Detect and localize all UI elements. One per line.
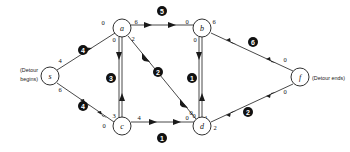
source-note-line1: (Detour bbox=[20, 67, 38, 73]
edge-arrow-a-c-right bbox=[168, 22, 176, 28]
edge-arrow-a-d-upper bbox=[142, 53, 150, 62]
edge-badge-e6-cf: 6 bbox=[248, 37, 258, 47]
edge-lines-layer bbox=[57, 22, 293, 125]
edge-badge-e1-dc: 1 bbox=[187, 73, 197, 83]
edge-badge-label: 2 bbox=[246, 109, 250, 116]
edge-arrow-a-down bbox=[116, 52, 122, 60]
edge-arrow-c-down bbox=[196, 52, 202, 60]
edge-head-value-e2-df: 0 bbox=[283, 88, 286, 95]
network-flow-diagram: 4 0 6 0 6 0 3 0 2 0 1 0 0 6 0 2 0 4 0 4 … bbox=[0, 0, 350, 152]
edge-head-value-e6-cf: 0 bbox=[283, 56, 286, 63]
edge-badge-e5-ac: 5 bbox=[157, 6, 167, 16]
edge-head-value-e4-sa: 0 bbox=[101, 19, 104, 26]
edge-badge-e2-df: 2 bbox=[243, 107, 253, 117]
edge-arrow-a-d-lower bbox=[180, 99, 188, 108]
node-f[interactable]: f bbox=[291, 68, 309, 86]
edge-tail-value-e1-bd: 4 bbox=[137, 114, 141, 121]
edge-head-value-e5-ac: 0 bbox=[185, 18, 188, 25]
edge-badge-label: 4 bbox=[81, 47, 85, 54]
edge-arrow-b-d-right bbox=[173, 119, 181, 125]
edge-head-value-e1-dc: 0 bbox=[193, 36, 196, 43]
edge-arrow-a-c-left bbox=[144, 22, 152, 28]
edge-badge-e4-sb: 4 bbox=[78, 101, 88, 111]
edge-tail-value-e4-sb: 6 bbox=[58, 86, 62, 93]
edge-badge-e1-bd: 1 bbox=[157, 133, 167, 143]
edge-arrow-b-up bbox=[119, 93, 125, 101]
edge-badge-label: 4 bbox=[81, 103, 85, 110]
edge-extra-value-e1-dc: 0 bbox=[192, 112, 195, 119]
node-label-c: b bbox=[200, 24, 204, 33]
edge-arrow-b-d-left bbox=[149, 119, 157, 125]
node-d[interactable]: d bbox=[193, 117, 211, 135]
edge-badge-e3-ba: 3 bbox=[106, 73, 116, 83]
nodes-layer: s a b c d f bbox=[41, 19, 309, 135]
edge-tail-value-e4-sa: 4 bbox=[58, 57, 62, 64]
edge-badge-label: 3 bbox=[109, 75, 113, 82]
node-a[interactable]: a bbox=[113, 19, 131, 37]
edge-tail-value-e2-df: 2 bbox=[213, 124, 216, 131]
edge-badge-label: 5 bbox=[160, 8, 164, 15]
edge-tail-value-e2-ad: 2 bbox=[131, 35, 134, 42]
edge-tail-value-e6-cf: 6 bbox=[212, 18, 216, 25]
edge-badge-label: 2 bbox=[156, 69, 160, 76]
edge-head-value-e3-ba: 0 bbox=[112, 36, 115, 43]
edge-badge-e4-sa: 4 bbox=[78, 45, 88, 55]
node-b[interactable]: c bbox=[113, 117, 131, 135]
node-s[interactable]: s bbox=[41, 67, 59, 85]
edge-badge-label: 1 bbox=[160, 135, 164, 142]
edge-badge-label: 1 bbox=[190, 75, 194, 82]
edge-arrow-s-b-2 bbox=[97, 111, 107, 118]
edge-arrow-d-up bbox=[199, 93, 205, 101]
node-label-a: a bbox=[120, 24, 124, 33]
node-label-b: c bbox=[120, 122, 124, 131]
edge-line-d-f bbox=[211, 84, 293, 122]
node-c[interactable]: b bbox=[193, 19, 211, 37]
edge-badge-label: 6 bbox=[251, 39, 255, 46]
node-label-s: s bbox=[48, 72, 51, 81]
edge-head-value-e1-bd: 0 bbox=[185, 114, 188, 121]
edge-head-value-e4-sb: 0 bbox=[102, 122, 105, 129]
sink-note: (Detour ends) bbox=[312, 75, 345, 81]
edge-tail-value-e3-ba: 3 bbox=[112, 112, 115, 119]
edge-badge-e2-ad: 2 bbox=[153, 67, 163, 77]
edge-tail-value-e5-ac: 6 bbox=[134, 18, 138, 25]
source-note-line2: begins) bbox=[20, 76, 38, 82]
